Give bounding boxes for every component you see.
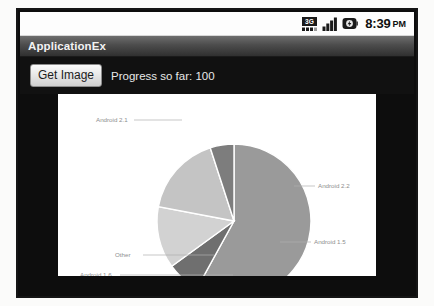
pie-chart: Android 2.1Android 2.2Android 1.5Android… bbox=[58, 94, 376, 276]
page-title: ApplicationEx bbox=[28, 40, 106, 52]
3g-data-icon: 3G bbox=[302, 17, 317, 31]
signal-bars-icon bbox=[322, 17, 337, 31]
status-bar: 3G bbox=[20, 12, 414, 36]
pie-slice-group bbox=[157, 144, 311, 276]
status-clock: 8:39 bbox=[365, 16, 390, 31]
svg-text:3G: 3G bbox=[305, 18, 314, 25]
pie-slice-label: Android 2.1 bbox=[96, 116, 128, 123]
page-backdrop: 3G bbox=[0, 0, 434, 306]
status-clock-ampm: PM bbox=[393, 19, 407, 29]
title-bar: ApplicationEx bbox=[20, 36, 414, 57]
pie-slice-label: Other bbox=[115, 251, 130, 258]
device-screenshot-frame: 3G bbox=[16, 8, 418, 298]
pie-slice-label: Android 1.6 bbox=[80, 271, 112, 276]
pie-chart-panel: Android 2.1Android 2.2Android 1.5Android… bbox=[58, 94, 376, 276]
pie-slice-label: Android 1.5 bbox=[314, 238, 346, 245]
battery-icon bbox=[342, 17, 358, 30]
get-image-button[interactable]: Get Image bbox=[30, 64, 102, 87]
progress-status-text: Progress so far: 100 bbox=[111, 70, 215, 82]
pie-slice-label: Android 2.2 bbox=[318, 182, 350, 189]
controls-row: Get Image Progress so far: 100 bbox=[20, 57, 414, 94]
